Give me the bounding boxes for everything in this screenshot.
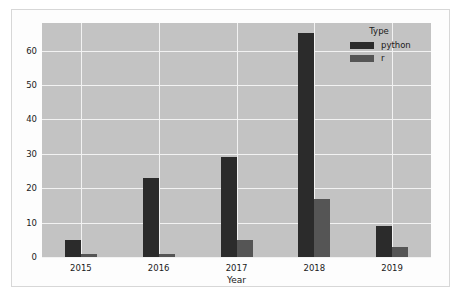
y-axis-tick-label: 30	[26, 150, 37, 159]
chart-figure: 010203040506020152016201720182019 Year T…	[11, 9, 450, 287]
legend-title: Type	[350, 27, 424, 36]
legend-label-r: r	[381, 54, 385, 63]
gridline-horizontal	[42, 257, 431, 258]
chart-legend: Type python r	[350, 27, 424, 67]
bar-python-2015[interactable]	[65, 240, 81, 257]
bar-r-2017[interactable]	[237, 240, 253, 257]
x-axis-label: Year	[227, 276, 246, 285]
legend-item-r[interactable]: r	[350, 54, 424, 63]
legend-label-python: python	[381, 41, 411, 50]
y-axis-tick-label: 20	[26, 184, 37, 193]
y-axis-tick-label: 50	[26, 81, 37, 90]
gridline-vertical	[237, 23, 238, 257]
gridline-vertical	[81, 23, 82, 257]
y-axis-tick-label: 60	[26, 46, 37, 55]
bar-python-2017[interactable]	[221, 157, 237, 257]
legend-swatch-r	[350, 55, 374, 62]
bar-python-2016[interactable]	[143, 178, 159, 257]
x-axis-tick-label: 2016	[148, 264, 170, 273]
bar-python-2018[interactable]	[298, 33, 314, 257]
bar-python-2019[interactable]	[376, 226, 392, 257]
y-axis-tick-label: 40	[26, 115, 37, 124]
bar-r-2016[interactable]	[159, 254, 175, 257]
bar-r-2015[interactable]	[81, 254, 97, 257]
plot-area: 010203040506020152016201720182019 Year T…	[42, 23, 431, 257]
y-axis-tick-label: 0	[32, 253, 37, 262]
bar-r-2018[interactable]	[314, 199, 330, 258]
legend-item-python[interactable]: python	[350, 41, 424, 50]
x-axis-tick-label: 2015	[70, 264, 92, 273]
x-axis-tick-label: 2017	[226, 264, 248, 273]
y-axis-tick-label: 10	[26, 218, 37, 227]
bar-r-2019[interactable]	[392, 247, 408, 257]
x-axis-tick-label: 2019	[381, 264, 403, 273]
gridline-vertical	[159, 23, 160, 257]
x-axis-tick-label: 2018	[303, 264, 325, 273]
legend-swatch-python	[350, 42, 374, 49]
